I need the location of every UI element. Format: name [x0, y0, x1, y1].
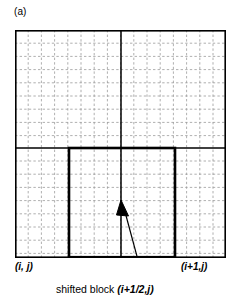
figure-caption: shifted block (i+1/2,j): [56, 283, 154, 296]
caption-index: (i+1/2,j): [117, 283, 153, 295]
grid-diagram: [15, 30, 226, 258]
panel-label: (a): [14, 6, 27, 18]
label-bottom-left-index: (i, j): [15, 261, 33, 272]
diagram-svg: [15, 30, 226, 258]
figure-panel: (a): [0, 0, 240, 304]
caption-text: shifted block: [56, 283, 117, 295]
label-bottom-right-index: (i+1,j): [181, 261, 207, 272]
